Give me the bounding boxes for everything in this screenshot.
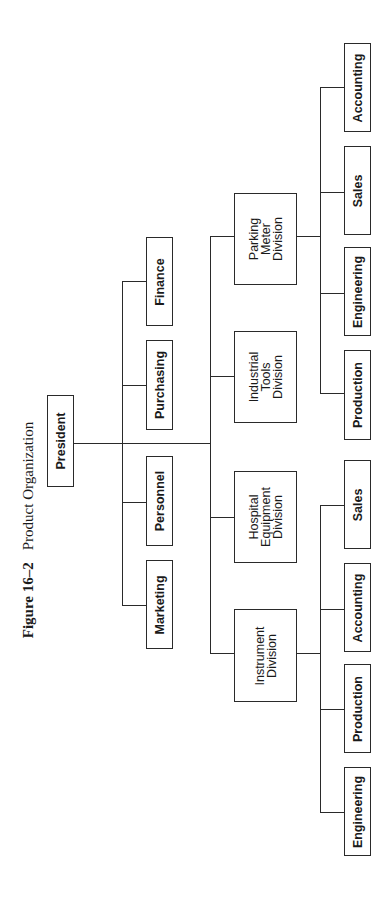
division-industrial-tools-box: Industrial Tools Division xyxy=(234,331,297,423)
staff-finance-box: Finance xyxy=(146,237,173,326)
connector-parking-meter xyxy=(210,236,234,237)
in-engineering-box: Engineering xyxy=(344,767,371,856)
pm-engineering-box: Engineering xyxy=(344,247,371,336)
connector-purchasing xyxy=(122,385,146,386)
connector-pm-sales xyxy=(320,192,344,193)
staff-purchasing-label: Purchasing xyxy=(153,351,166,419)
connector-in-engineering xyxy=(320,812,344,813)
in-production-box: Production xyxy=(344,664,371,753)
connector-pm-engineering xyxy=(320,293,344,294)
division-parking-meter-label: Parking Meter Division xyxy=(248,217,284,261)
division-instrument-box: Instrument Division xyxy=(234,609,297,702)
division-industrial-tools-label: Industrial Tools Division xyxy=(248,352,284,403)
figure-title: Product Organization xyxy=(20,422,36,550)
parking-dept-trunk xyxy=(320,87,321,394)
division-instrument-label: Instrument Division xyxy=(254,626,278,685)
pm-engineering-label: Engineering xyxy=(351,255,364,327)
pm-accounting-box: Accounting xyxy=(344,43,371,132)
connector-industrial-tools xyxy=(210,376,234,377)
connector-instrument-to-depts xyxy=(297,653,321,654)
staff-finance-label: Finance xyxy=(153,258,166,305)
in-sales-box: Sales xyxy=(344,460,371,549)
connector-pm-accounting xyxy=(320,87,344,88)
connector-in-sales xyxy=(320,505,344,506)
division-parking-meter-box: Parking Meter Division xyxy=(234,193,297,285)
staff-personnel-label: Personnel xyxy=(153,471,166,531)
connector-in-production xyxy=(320,709,344,710)
connector-hospital-equipment xyxy=(210,517,234,518)
connector-in-accounting xyxy=(320,609,344,610)
staff-personnel-box: Personnel xyxy=(146,456,173,546)
connector-president xyxy=(73,443,211,444)
figure-number: Figure 16–2 xyxy=(20,562,36,638)
connector-marketing xyxy=(122,605,146,606)
division-hospital-equipment-box: Hospital Equipment Division xyxy=(234,471,297,563)
staff-trunk xyxy=(122,281,123,606)
figure-caption: Figure 16–2Product Organization xyxy=(20,422,37,638)
president-label: President xyxy=(54,413,67,470)
connector-parking-to-depts xyxy=(297,236,321,237)
division-hospital-equipment-label: Hospital Equipment Division xyxy=(248,487,284,547)
staff-marketing-box: Marketing xyxy=(146,560,173,649)
division-trunk xyxy=(210,236,211,654)
connector-instrument xyxy=(210,653,234,654)
pm-sales-label: Sales xyxy=(351,174,364,207)
in-sales-label: Sales xyxy=(351,488,364,521)
in-engineering-label: Engineering xyxy=(351,775,364,847)
pm-sales-box: Sales xyxy=(344,146,371,235)
pm-production-box: Production xyxy=(344,350,371,440)
in-accounting-box: Accounting xyxy=(344,563,371,652)
staff-purchasing-box: Purchasing xyxy=(146,340,173,430)
in-production-label: Production xyxy=(351,676,364,742)
connector-pm-production xyxy=(320,393,344,394)
staff-marketing-label: Marketing xyxy=(153,575,166,634)
connector-finance xyxy=(122,281,146,282)
in-accounting-label: Accounting xyxy=(351,573,364,642)
instrument-dept-trunk xyxy=(320,505,321,813)
connector-personnel xyxy=(122,502,146,503)
president-box: President xyxy=(47,395,74,487)
pm-accounting-label: Accounting xyxy=(351,53,364,122)
pm-production-label: Production xyxy=(351,362,364,428)
